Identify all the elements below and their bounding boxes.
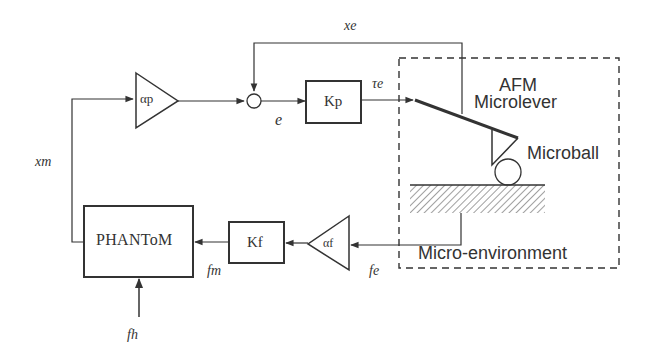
fh-label: fh xyxy=(127,327,138,343)
tau-e-label: τe xyxy=(372,76,383,92)
microball xyxy=(495,159,521,185)
xm-label: xm xyxy=(35,154,51,170)
fe-label: fe xyxy=(369,263,379,279)
microlever-label: Microlever xyxy=(474,92,557,113)
fm-label: fm xyxy=(207,263,221,279)
micro-environment-label: Micro-environment xyxy=(418,243,567,264)
block-diagram xyxy=(0,0,647,360)
microball-label: Microball xyxy=(527,143,599,164)
xe-label: xe xyxy=(344,18,356,34)
fe-signal-line xyxy=(351,213,461,245)
alpha-f-label: αf xyxy=(323,236,333,251)
kf-label: Kf xyxy=(247,234,263,251)
alpha-p-label: αp xyxy=(140,91,153,107)
kp-label: Kp xyxy=(324,93,342,110)
phantom-label: PHANToM xyxy=(96,231,173,249)
e-label: e xyxy=(275,111,282,129)
summing-junction xyxy=(247,94,261,108)
substrate-surface xyxy=(410,185,545,213)
